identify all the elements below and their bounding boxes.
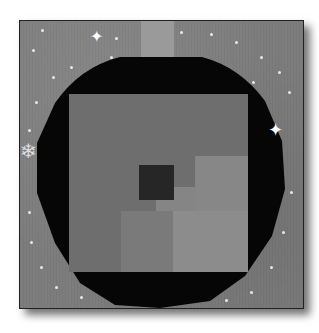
inner-light-patch-mid: [121, 211, 173, 272]
star-dot: [55, 286, 58, 289]
star-dot: [30, 241, 33, 244]
star-dot: [28, 129, 31, 132]
star-dot: [32, 49, 35, 52]
star-dot: [52, 76, 55, 79]
star-dot: [40, 266, 43, 269]
inner-light-patch-bottom: [173, 211, 248, 272]
star-dot: [80, 296, 83, 299]
center-square: [139, 165, 174, 200]
star-dot: [70, 66, 73, 69]
star-dot: [252, 81, 255, 84]
star-dot: [210, 33, 213, 36]
star-dot: [270, 266, 273, 269]
star-dot: [278, 71, 281, 74]
star-dot: [260, 56, 263, 59]
star-dot: [288, 91, 291, 94]
inner-light-patch-right: [195, 156, 248, 211]
star-dot: [235, 41, 238, 44]
ornament-cap: [141, 21, 174, 57]
star-dot: [28, 211, 31, 214]
star-dot: [250, 291, 253, 294]
star-icon: ✦: [90, 29, 103, 45]
ornament: [20, 21, 303, 308]
star-dot: [225, 299, 228, 302]
snowflake-icon: ❄: [20, 141, 37, 161]
star-icon: ✦: [268, 121, 283, 139]
star-dot: [110, 56, 113, 59]
star-dot: [115, 37, 118, 40]
star-dot: [290, 191, 293, 194]
star-dot: [282, 231, 285, 234]
star-dot: [180, 31, 183, 34]
star-dot: [41, 29, 44, 32]
quilt-block: ✦ ✦ ❄: [19, 20, 304, 309]
star-dot: [35, 101, 38, 104]
